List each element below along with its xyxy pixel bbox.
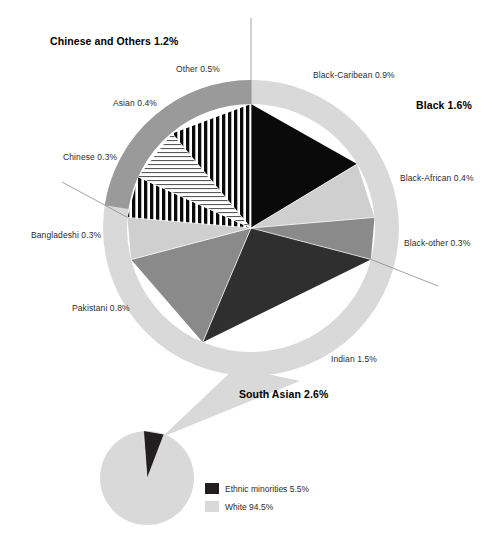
legend-label-white: White 94.5% [225, 502, 273, 512]
slice-label-asian: Asian 0.4% [113, 98, 157, 109]
slice-label-pakistani: Pakistani 0.8% [72, 303, 130, 314]
slice-label-black-other: Black-other 0.3% [404, 238, 470, 249]
legend-swatch-ethnic-minorities [205, 483, 219, 494]
slice-label-indian: Indian 1.5% [331, 354, 377, 365]
slice-label-black-caribean: Black-Caribean 0.9% [313, 70, 395, 81]
chart-root: Chinese and Others 1.2% Black 1.6% South… [0, 0, 496, 559]
legend-label-ethnic-minorities: Ethnic minorities 5.5% [225, 484, 309, 494]
group-label-south-asian: South Asian 2.6% [239, 389, 328, 400]
group-label-chinese-others: Chinese and Others 1.2% [50, 36, 178, 47]
legend-item-white: White 94.5% [205, 499, 309, 514]
overview-pie [100, 431, 194, 525]
legend: Ethnic minorities 5.5% White 94.5% [205, 481, 309, 517]
legend-swatch-white [205, 501, 219, 512]
detail-pie [128, 104, 375, 342]
slice-label-chinese: Chinese 0.3% [63, 152, 117, 163]
pie-chart-graphic [0, 0, 496, 559]
callout-cone [162, 367, 300, 437]
slice-label-bangladeshi: Bangladeshi 0.3% [31, 230, 101, 241]
legend-item-ethnic-minorities: Ethnic minorities 5.5% [205, 481, 309, 496]
group-label-black: Black 1.6% [416, 100, 472, 111]
slice-label-other: Other 0.5% [176, 64, 220, 75]
slice-label-black-african: Black-African 0.4% [400, 173, 474, 184]
